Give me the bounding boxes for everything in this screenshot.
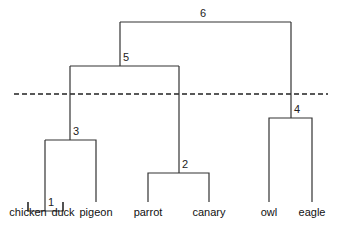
node-label-4: 4 (294, 103, 300, 115)
leaf-label-pigeon: pigeon (79, 206, 112, 218)
cluster-node-3: 3 (45, 66, 96, 202)
leaf-label-parrot: parrot (134, 206, 163, 218)
cluster-node-1: 1 (28, 140, 63, 211)
leaf-label-owl: owl (261, 206, 278, 218)
dendrogram: 1 3 2 5 4 6 chicken duck pigeon parrot c… (0, 0, 338, 227)
node-label-6: 6 (200, 7, 206, 19)
node-label-5: 5 (123, 51, 129, 63)
cluster-node-2: 2 (148, 66, 209, 202)
leaf-labels: chicken duck pigeon parrot canary owl ea… (9, 206, 325, 218)
leaf-label-duck: duck (51, 206, 75, 218)
cluster-node-6: 6 (120, 7, 291, 22)
node-label-2: 2 (182, 158, 188, 170)
node-label-3: 3 (73, 125, 79, 137)
cluster-node-5: 5 (70, 22, 179, 66)
leaf-label-eagle: eagle (299, 206, 326, 218)
cluster-node-4: 4 (269, 22, 312, 202)
leaf-label-canary: canary (192, 206, 226, 218)
leaf-label-chicken: chicken (9, 206, 46, 218)
